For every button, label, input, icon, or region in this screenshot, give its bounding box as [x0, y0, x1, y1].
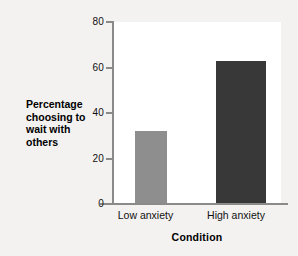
x-tick-label-high-anxiety: High anxiety: [196, 209, 276, 221]
y-axis-title-line-3: wait with: [26, 123, 100, 136]
y-tick-label: 60: [82, 63, 104, 73]
y-tick-mark: [106, 67, 113, 69]
y-tick-label: 20: [82, 154, 104, 164]
y-tick-label-text: 60: [82, 63, 104, 73]
x-tick-label-low-anxiety: Low anxiety: [108, 209, 183, 221]
bar-high-anxiety: [216, 61, 266, 204]
y-axis-title-line-2: choosing to: [26, 111, 100, 124]
bar-chart-figure: 020406080 Low anxiety High anxiety Condi…: [0, 0, 298, 256]
y-tick-label-text: 0: [82, 199, 104, 209]
y-axis-title-line-4: others: [26, 136, 100, 149]
plot-area: [113, 22, 281, 204]
y-tick-mark: [106, 203, 113, 205]
y-tick-label-text: 20: [82, 154, 104, 164]
bar-low-anxiety: [135, 131, 167, 204]
y-tick-label: 80: [82, 17, 104, 27]
x-axis-line: [100, 203, 288, 205]
y-tick-mark: [106, 112, 113, 114]
y-tick-label-text: 80: [82, 17, 104, 27]
y-axis-title-line-1: Percentage: [26, 98, 100, 111]
y-tick-mark: [106, 21, 113, 23]
y-axis-title: Percentage choosing to wait with others: [26, 98, 100, 148]
y-tick-label: 0: [82, 199, 104, 209]
x-axis-title: Condition: [113, 231, 281, 243]
y-tick-mark: [106, 158, 113, 160]
